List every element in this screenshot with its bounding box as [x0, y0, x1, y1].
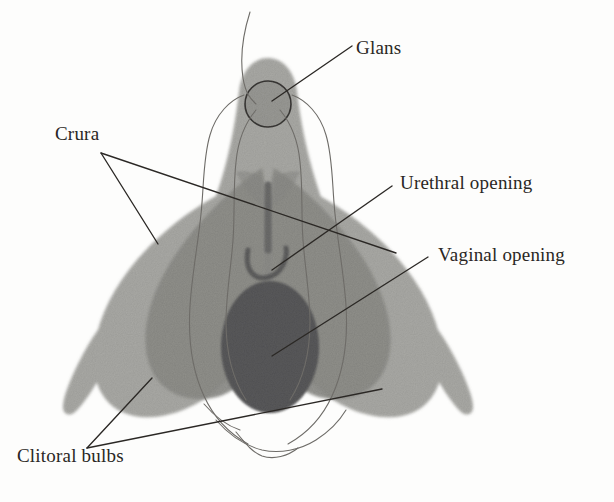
label-vaginal-opening: Vaginal opening	[438, 245, 565, 264]
label-urethral-opening: Urethral opening	[400, 173, 532, 192]
anatomical-figure: Glans Crura Urethral opening Vaginal ope…	[0, 0, 614, 502]
anatomy-shapes	[63, 58, 473, 417]
contour-perineum-inner	[236, 432, 298, 458]
vaginal-opening-shape	[221, 281, 319, 413]
label-glans: Glans	[356, 38, 401, 57]
label-clitoral-bulbs: Clitoral bulbs	[17, 446, 124, 465]
glans-circle-shape	[245, 81, 291, 127]
glans-group	[245, 81, 291, 127]
contour-perineum	[216, 410, 346, 452]
label-crura: Crura	[55, 124, 99, 143]
leader-crura-left	[101, 153, 158, 244]
